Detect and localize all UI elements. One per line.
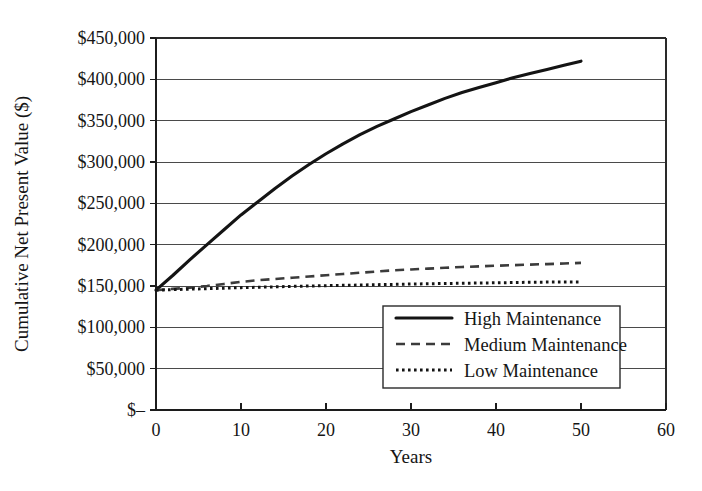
legend-label: Medium Maintenance (464, 335, 627, 355)
chart-legend: High MaintenanceMedium MaintenanceLow Ma… (383, 306, 627, 388)
y-tick-label: $450,000 (78, 28, 146, 48)
y-tick-label: $250,000 (78, 193, 146, 213)
x-axis-title: Years (390, 446, 432, 467)
chart-container: $–$50,000$100,000$150,000$200,000$250,00… (0, 0, 702, 491)
y-tick-label: $– (127, 400, 146, 420)
x-tick-label: 60 (657, 420, 675, 440)
x-tick-label: 0 (152, 420, 161, 440)
line-chart: $–$50,000$100,000$150,000$200,000$250,00… (0, 0, 702, 491)
y-tick-label: $150,000 (78, 276, 146, 296)
x-tick-label: 10 (232, 420, 250, 440)
y-tick-label: $50,000 (87, 359, 146, 379)
legend-label: Low Maintenance (464, 361, 598, 381)
x-tick-label: 50 (572, 420, 590, 440)
x-tick-label: 40 (487, 420, 505, 440)
y-axis-title: Cumulative Net Present Value ($) (11, 96, 33, 352)
legend-label: High Maintenance (464, 309, 601, 329)
y-tick-label: $400,000 (78, 69, 146, 89)
y-tick-label: $350,000 (78, 111, 146, 131)
y-tick-label: $200,000 (78, 235, 146, 255)
x-tick-label: 30 (402, 420, 420, 440)
y-tick-label: $300,000 (78, 152, 146, 172)
x-tick-label: 20 (317, 420, 335, 440)
y-tick-label: $100,000 (78, 317, 146, 337)
